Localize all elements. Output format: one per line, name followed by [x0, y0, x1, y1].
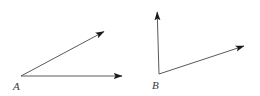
ray-b-diagonal [159, 46, 244, 74]
angle-b-group: B [152, 12, 244, 91]
vertex-label-a: A [12, 80, 20, 92]
angle-diagram: A B [0, 0, 260, 96]
ray-a-upper [21, 32, 104, 76]
vertex-label-b: B [152, 79, 159, 91]
angle-a-group: A [12, 32, 122, 92]
ray-b-vertical [157, 12, 159, 74]
angle-figure-canvas: A B [0, 0, 260, 96]
